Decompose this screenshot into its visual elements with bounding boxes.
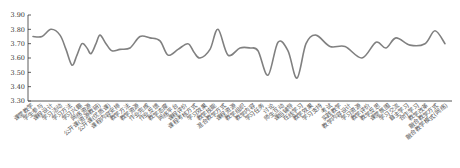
y-tick-label: 3.90 <box>11 11 25 19</box>
y-tick-label: 3.40 <box>11 83 25 91</box>
y-tick-label: 3.80 <box>11 26 25 34</box>
y-axis: 3.903.803.703.603.503.403.30 <box>11 11 31 105</box>
line-chart: 3.903.803.703.603.503.403.30 课堂教学学生参与课程设… <box>0 0 460 168</box>
data-line <box>33 29 445 78</box>
y-tick-label: 3.70 <box>11 40 25 48</box>
y-tick-label: 3.60 <box>11 54 25 62</box>
x-axis: 课堂教学学生参与课程设计学习活动学习方法学习兴趣网络资源公开课(资源教研)公开课… <box>12 101 452 141</box>
y-tick-label: 3.50 <box>11 69 25 77</box>
y-tick-label: 3.30 <box>11 97 25 105</box>
